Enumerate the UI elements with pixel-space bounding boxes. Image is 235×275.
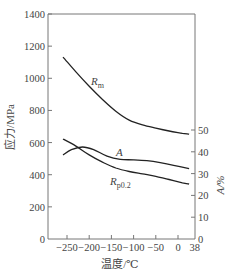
y2-axis-label: A/% <box>214 176 226 196</box>
y-tick-label: 0 <box>40 234 45 245</box>
series-label-rp02: Rp0.2 <box>109 175 131 190</box>
x-tick-label: −200 <box>78 242 100 253</box>
y-tick-label: 800 <box>29 105 45 116</box>
y2-tick-label: 10 <box>198 212 209 223</box>
y-tick-label: 400 <box>29 170 45 181</box>
y-axis-label: 应力/MPa <box>3 104 16 150</box>
x-tick-label: 38 <box>190 242 201 253</box>
y-tick-label: 1000 <box>24 73 45 84</box>
y2-tick-label: 50 <box>198 125 209 136</box>
chart: 020040060080010001200140001020304050−250… <box>0 0 235 275</box>
series-line-rm <box>63 57 189 134</box>
series-line-rp02 <box>63 139 189 184</box>
y2-tick-label: 40 <box>198 147 209 158</box>
y-tick-label: 1400 <box>24 9 45 20</box>
x-tick-label: −150 <box>101 242 123 253</box>
x-axis-label: 温度/℃ <box>101 257 138 270</box>
x-tick-label: −250 <box>56 242 78 253</box>
x-tick-label: 0 <box>175 242 180 253</box>
series-label-a: A <box>115 146 123 158</box>
y-tick-label: 1200 <box>24 41 45 52</box>
series-labels: RmRp0.2A <box>90 75 131 190</box>
y-tick-label: 200 <box>29 202 45 213</box>
series-lines <box>63 57 189 184</box>
y-tick-label: 600 <box>29 138 45 149</box>
axes: 020040060080010001200140001020304050−250… <box>24 9 209 253</box>
y2-tick-label: 30 <box>198 169 209 180</box>
x-tick-label: −50 <box>148 242 164 253</box>
y2-tick-label: 20 <box>198 190 209 201</box>
series-label-rm: Rm <box>90 75 105 90</box>
x-tick-label: −100 <box>123 242 145 253</box>
